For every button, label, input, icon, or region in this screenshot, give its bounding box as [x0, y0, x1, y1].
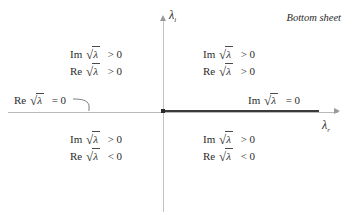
complex-lambda-plane-diagram: λi λr Bottom sheet Im √λ > 0 Re √λ > 0 I… [0, 0, 353, 215]
radical-icon: √λ [219, 131, 235, 148]
function-name: Im [203, 133, 215, 145]
radical-icon: √λ [30, 93, 46, 107]
relation: < 0 [241, 150, 255, 162]
expression-line: Re √λ > 0 [203, 63, 255, 80]
radical-argument: λ [225, 148, 233, 165]
radical-icon: √λ [219, 148, 235, 165]
expression-line: Re √λ > 0 [70, 63, 122, 80]
radical-argument: λ [92, 46, 100, 63]
radical-icon: √λ [86, 148, 102, 165]
function-name: Re [70, 150, 82, 162]
radical-icon: √λ [264, 93, 280, 107]
origin-marker [161, 109, 165, 113]
relation: > 0 [241, 48, 255, 60]
quadrant-annotation-lower-left: Im √λ > 0 Re √λ < 0 [70, 131, 122, 165]
horizontal-axis-label: λr [322, 118, 330, 134]
vertical-axis-arrow-icon [160, 15, 166, 21]
relation: > 0 [108, 65, 122, 77]
quadrant-annotation-lower-right: Im √λ > 0 Re √λ < 0 [203, 131, 255, 165]
radical-argument: λ [92, 131, 100, 148]
function-name: Re [70, 65, 82, 77]
quadrant-annotation-upper-left: Im √λ > 0 Re √λ > 0 [70, 46, 122, 80]
vertical-axis-label: λi [169, 8, 176, 24]
sheet-caption: Bottom sheet [286, 12, 341, 23]
function-name: Re [203, 65, 215, 77]
radical-argument: λ [36, 93, 44, 106]
relation: > 0 [108, 133, 122, 145]
horizontal-axis-label-subscript: r [327, 126, 330, 134]
callout-positive-real-axis: Im √λ = 0 [248, 93, 300, 107]
radical-icon: √λ [219, 63, 235, 80]
radical-icon: √λ [86, 46, 102, 63]
function-name: Im [203, 48, 215, 60]
expression-line: Im √λ > 0 [70, 46, 122, 63]
radical-icon: √λ [86, 131, 102, 148]
expression-line: Im √λ > 0 [203, 131, 255, 148]
relation: > 0 [241, 65, 255, 77]
relation: = 0 [286, 94, 300, 106]
function-name: Im [248, 94, 260, 106]
quadrant-annotation-upper-right: Im √λ > 0 Re √λ > 0 [203, 46, 255, 80]
branch-cut-segment [163, 110, 319, 112]
vertical-axis-line [163, 20, 164, 212]
function-name: Im [70, 48, 82, 60]
function-name: Re [203, 150, 215, 162]
horizontal-axis-arrow-icon [334, 108, 340, 114]
relation: < 0 [108, 150, 122, 162]
radical-argument: λ [225, 63, 233, 80]
expression-line: Re √λ < 0 [203, 148, 255, 165]
function-name: Re [14, 94, 26, 106]
expression-line: Re √λ < 0 [70, 148, 122, 165]
function-name: Im [70, 133, 82, 145]
radical-argument: λ [225, 46, 233, 63]
vertical-axis-label-subscript: i [174, 16, 176, 24]
radical-icon: √λ [219, 46, 235, 63]
radical-argument: λ [225, 131, 233, 148]
relation: = 0 [52, 94, 66, 106]
horizontal-axis-line [8, 112, 338, 113]
radical-argument: λ [270, 93, 278, 106]
relation: > 0 [241, 133, 255, 145]
radical-icon: √λ [86, 63, 102, 80]
callout-negative-real-axis: Re √λ = 0 [14, 93, 66, 107]
relation: > 0 [108, 48, 122, 60]
expression-line: Im √λ > 0 [70, 131, 122, 148]
radical-argument: λ [92, 148, 100, 165]
expression-line: Im √λ > 0 [203, 46, 255, 63]
radical-argument: λ [92, 63, 100, 80]
leader-line-left-icon [72, 96, 98, 116]
